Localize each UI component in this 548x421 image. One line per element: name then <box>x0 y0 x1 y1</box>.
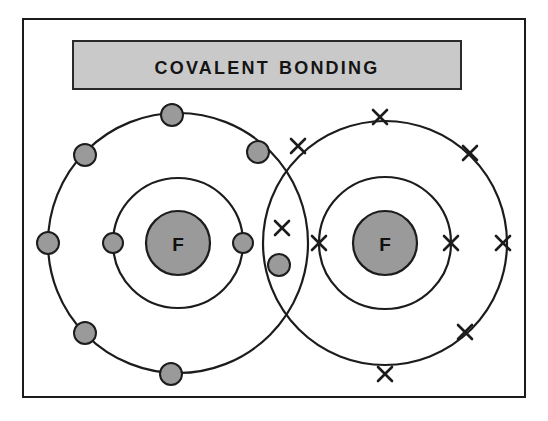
right-nucleus-label: F <box>379 234 391 255</box>
left-outer-electron-dot <box>247 141 269 163</box>
left-inner-electron-dot <box>233 233 253 253</box>
diagram-canvas: Covalent Bonding F F <box>0 0 548 421</box>
left-outer-electron-dot <box>161 104 183 126</box>
left-outer-electron-dot <box>160 363 182 385</box>
bonding-pair-electron-dot <box>268 254 290 276</box>
left-nucleus-label: F <box>172 234 184 255</box>
left-outer-electron-dot <box>37 232 59 254</box>
title-banner: Covalent Bonding <box>72 40 462 90</box>
page-title: Covalent Bonding <box>155 51 380 80</box>
left-outer-electron-dot <box>74 144 96 166</box>
left-inner-electron-dot <box>103 233 123 253</box>
left-outer-electron-dot <box>74 322 96 344</box>
